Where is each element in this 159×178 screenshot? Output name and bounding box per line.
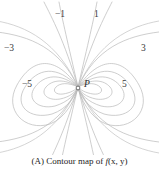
contour-label-minus-1: −1 (55, 10, 65, 20)
contour-curve-group-right (78, 2, 159, 155)
contour-map-figure: −1 1 −3 3 −5 5 P (A) Contour map of f(x,… (0, 0, 159, 178)
contour-label-minus-3: −3 (4, 44, 14, 54)
figure-caption: (A) Contour map of f(x, y) (0, 155, 159, 167)
contour-label-1: 1 (94, 10, 99, 20)
caption-prefix: (A) Contour map of (31, 156, 105, 166)
point-p-label: P (84, 80, 90, 90)
contour-label-minus-5: −5 (22, 80, 32, 90)
point-p-marker (76, 86, 80, 90)
contour-label-5: 5 (122, 80, 127, 90)
caption-arguments: (x, y) (108, 156, 128, 166)
contour-curves (0, 0, 159, 155)
contour-curve-group-left (0, 2, 78, 155)
contour-plot-area: −1 1 −3 3 −5 5 P (0, 0, 159, 155)
contour-label-3: 3 (141, 44, 146, 54)
